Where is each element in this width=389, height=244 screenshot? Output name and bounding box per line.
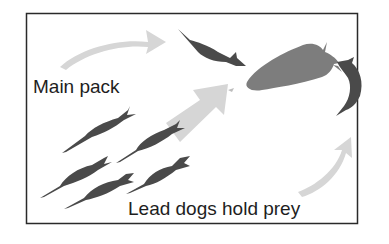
label-main-pack: Main pack	[33, 77, 120, 96]
lead-dog-top	[178, 29, 246, 66]
curved-arrow-top	[60, 30, 166, 70]
curved-arrow-bottom	[298, 137, 352, 197]
main-pack-dogs	[40, 106, 190, 209]
pack-dog-2	[116, 120, 185, 163]
label-lead-dogs: Lead dogs hold prey	[128, 199, 300, 218]
prey-animal	[246, 42, 339, 91]
big-arrow-center	[166, 84, 228, 142]
pack-dog-5	[126, 156, 190, 194]
pack-dog-1	[62, 106, 136, 153]
